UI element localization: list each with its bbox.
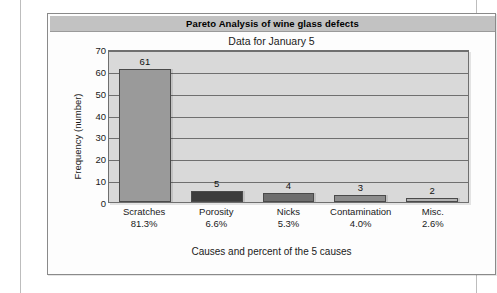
bars-layer: 615432 [109,51,468,202]
bar-value-label: 3 [324,183,396,193]
chart-title-bar: Pareto Analysis of wine glass defects [50,16,495,32]
x-axis-category-labels: Scratches81.3%Porosity6.6%Nicks5.3%Conta… [108,206,469,236]
y-axis-tick-labels: 706050403020100 [84,50,106,220]
bar-slot: 3 [324,51,396,202]
x-axis-label: Misc.2.6% [397,206,469,230]
bar-value-label: 5 [181,179,253,189]
x-axis-label-percent: 4.0% [325,218,397,230]
bar-slot: 5 [181,51,253,202]
bar-slot: 2 [396,51,468,202]
bar-value-label: 4 [253,181,325,191]
x-axis-label: Nicks5.3% [252,206,324,230]
x-axis-label: Porosity6.6% [180,206,252,230]
bar-value-label: 61 [109,57,181,67]
x-axis-label-percent: 5.3% [252,218,324,230]
y-axis-tick-label: 50 [84,89,106,98]
bar-slot: 61 [109,51,181,202]
x-axis-label-percent: 6.6% [180,218,252,230]
plot-area: 615432 [108,50,469,203]
bar-scratches[interactable] [119,69,171,202]
bar-value-label: 2 [396,186,468,196]
y-axis-tick-label: 10 [84,177,106,186]
x-axis-label-name: Contamination [330,206,391,217]
x-axis-label-name: Nicks [277,206,300,217]
y-axis-tick-label: 60 [84,67,106,76]
y-axis-tick-label: 20 [84,155,106,164]
y-axis-tick-label: 70 [84,46,106,55]
y-axis-tick-label: 40 [84,111,106,120]
x-axis-label: Scratches81.3% [108,206,180,230]
y-axis-tick-label: 30 [84,133,106,142]
bar-nicks[interactable] [263,193,315,202]
chart-title: Pareto Analysis of wine glass defects [186,18,359,29]
bar-porosity[interactable] [191,191,243,202]
x-axis-label: Contamination4.0% [325,206,397,230]
chart-subtitle: Data for January 5 [48,35,495,47]
x-axis-label-name: Scratches [123,206,165,217]
bar-slot: 4 [253,51,325,202]
document-page: Pareto Analysis of wine glass defects Da… [20,0,477,293]
bar-misc[interactable] [406,198,458,202]
x-axis-label-percent: 81.3% [108,218,180,230]
bar-contamination[interactable] [334,195,386,202]
x-axis-title: Causes and percent of the 5 causes [48,246,495,257]
chart-object-frame[interactable]: Pareto Analysis of wine glass defects Da… [47,13,496,275]
x-axis-label-name: Misc. [422,206,444,217]
y-axis-title: Frequency (number) [72,77,83,197]
x-axis-label-percent: 2.6% [397,218,469,230]
x-axis-label-name: Porosity [199,206,233,217]
y-axis-tick-label: 0 [84,199,106,208]
